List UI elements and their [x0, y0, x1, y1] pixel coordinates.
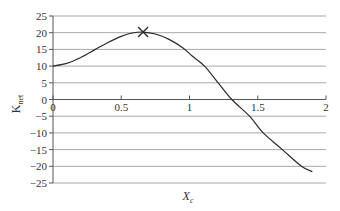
x-tick-label: 0.5	[114, 101, 128, 113]
y-tick-label: 0	[42, 94, 48, 106]
y-tick-label: 10	[36, 60, 48, 72]
y-tick-label: 25	[36, 10, 48, 22]
x-tick-labels: 00.511.52	[50, 101, 329, 113]
y-tick-label: 15	[36, 43, 48, 55]
y-tick-label: −20	[30, 160, 48, 172]
y-axis-title: Knet	[9, 94, 25, 113]
x-tick-label: 0	[50, 101, 56, 113]
data-curve	[53, 32, 312, 172]
y-tick-label: −10	[30, 127, 48, 139]
y-tick-label: 5	[42, 77, 48, 89]
x-axis-title: Xc	[182, 189, 194, 205]
y-tick-label: −25	[30, 177, 48, 189]
chart: 2520151050−5−10−15−20−25 00.511.52 Knet …	[0, 0, 340, 211]
x-tick-label: 2	[323, 101, 329, 113]
axes	[49, 16, 326, 183]
x-tick-label: 1	[187, 101, 193, 113]
y-tick-labels: 2520151050−5−10−15−20−25	[30, 10, 48, 189]
y-tick-label: 20	[36, 27, 48, 39]
x-tick-label: 1.5	[251, 101, 265, 113]
y-tick-label: −5	[35, 110, 47, 122]
y-tick-label: −15	[30, 144, 48, 156]
